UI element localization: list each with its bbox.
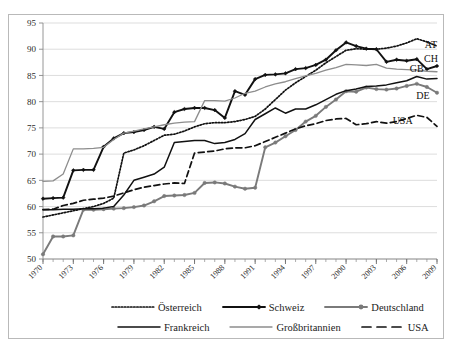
data-point-de [304,120,307,123]
legend-swatch-de [324,301,368,313]
data-point-de [324,105,327,108]
legend-swatch-us [361,321,405,333]
y-tick-label: 50 [27,254,37,264]
legend-item-de[interactable]: Deutschland [324,301,424,313]
data-point-ch [203,106,207,110]
data-point-de [142,204,145,207]
x-tick-label: 1982 [148,263,166,281]
y-tick-label: 85 [27,71,37,81]
x-tick-label: 2009 [420,263,438,281]
legend-item-fr[interactable]: Frankreich [117,321,209,333]
data-point-de [354,90,357,93]
data-point-de [122,206,125,209]
legend-swatch-gb [229,321,273,333]
series-us [43,115,437,209]
data-point-de [435,91,438,94]
data-point-de [213,181,216,184]
data-point-ch [405,59,409,63]
chart-legend: ÖsterreichSchweizDeutschland FrankreichG… [59,297,409,337]
end-label-gb: GB [410,63,424,74]
data-point-de [243,187,246,190]
legend-label-ch: Schweiz [269,302,305,313]
data-point-de [62,235,65,238]
data-point-de [274,141,277,144]
legend-label-fr: Frankreich [164,322,209,333]
legend-item-at[interactable]: Österreich [111,301,202,313]
series-line-us [43,115,437,209]
y-tick-label: 65 [27,176,37,186]
data-point-ch [51,196,55,200]
x-tick-label: 1979 [117,263,135,281]
legend-item-ch[interactable]: Schweiz [222,301,305,313]
y-tick-label: 70 [27,149,37,159]
end-label-us: USA [393,115,414,126]
x-tick-label: 2006 [390,263,408,281]
data-point-ch [193,106,197,110]
legend-swatch-ch [222,301,266,313]
y-tick-label: 90 [27,44,37,54]
end-label-at: AT [425,39,437,50]
x-tick-label: 1997 [299,263,317,281]
end-label-ch: CH [424,53,438,64]
data-point-de [51,235,54,238]
legend-label-us: USA [408,322,429,333]
x-tick-label: 2000 [330,263,348,281]
data-point-de [314,114,317,117]
end-label-de: DE [416,90,429,101]
x-tick-label: 1976 [87,263,105,281]
data-point-de [183,193,186,196]
series-line-fr [43,76,437,209]
series-line-de [43,84,437,254]
data-point-ch [41,197,45,201]
x-tick-label: 2003 [360,263,378,281]
data-point-de [284,135,287,138]
data-point-ch [82,168,86,172]
legend-swatch-at [111,301,155,313]
data-point-de [152,200,155,203]
data-point-de [405,84,408,87]
series-line-gb [43,64,437,181]
data-point-de [223,182,226,185]
figure-root: 5055606570758085909519701973197619791982… [0,0,454,347]
data-point-de [193,191,196,194]
data-point-de [415,82,418,85]
y-tick-label: 80 [27,97,37,107]
series-de [41,82,438,256]
data-point-de [385,88,388,91]
data-point-de [132,205,135,208]
legend-label-at: Österreich [158,302,202,313]
caption-fragment [0,0,454,12]
plot-area: 5055606570758085909519701973197619791982… [9,15,445,340]
x-tick-label: 1991 [239,263,257,281]
legend-row-1: ÖsterreichSchweizDeutschland [59,297,409,317]
series-fr [43,76,437,209]
chart-frame: 5055606570758085909519701973197619791982… [8,14,444,339]
y-tick-label: 75 [27,123,37,133]
data-point-de [395,87,398,90]
data-point-de [334,98,337,101]
data-point-de [163,194,166,197]
data-point-de [425,85,428,88]
data-point-de [253,186,256,189]
y-tick-label: 55 [27,228,37,238]
legend-label-gb: Großbritannien [276,322,340,333]
data-point-ch [395,58,399,62]
legend-label-de: Deutschland [371,302,424,313]
x-tick-label: 1973 [57,263,75,281]
x-tick-label: 1970 [26,263,44,281]
legend-row-2: FrankreichGroßbritannienUSA [59,317,409,337]
legend-item-us[interactable]: USA [361,321,429,333]
data-point-de [264,146,267,149]
data-point-de [173,194,176,197]
data-point-de [203,181,206,184]
series-gb [43,64,437,181]
y-tick-label: 95 [27,18,37,28]
data-point-de [72,234,75,237]
x-tick-label: 1988 [208,263,226,281]
data-point-de [233,185,236,188]
legend-item-gb[interactable]: Großbritannien [229,321,340,333]
x-tick-label: 1994 [269,263,287,281]
line-chart: 5055606570758085909519701973197619791982… [9,15,445,340]
y-tick-label: 60 [27,202,37,212]
data-point-de [375,87,378,90]
